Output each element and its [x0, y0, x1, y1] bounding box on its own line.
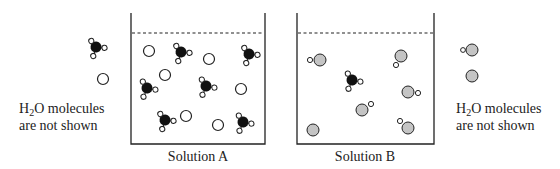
beaker-b — [297, 13, 434, 144]
legend-left-note: H2O molecules are not shown — [19, 100, 105, 134]
legend-right-note: H2O molecules are not shown — [456, 100, 542, 134]
legend-left-suffix: O molecules — [34, 101, 104, 116]
legend-right-h: H — [456, 101, 466, 116]
legend-left-open-circle-icon — [98, 74, 109, 85]
legend-right-gray-molecule-icon — [461, 44, 478, 56]
diagram-canvas — [0, 0, 560, 169]
legend-left-h: H — [19, 101, 29, 116]
legend-right-gray-circle-icon — [466, 70, 478, 82]
legend-left-line2: are not shown — [19, 118, 98, 133]
legend-right-line2: are not shown — [456, 118, 535, 133]
beaker-a — [131, 13, 265, 144]
solution-b-caption: Solution B — [295, 149, 435, 165]
legend-right-suffix: O molecules — [471, 101, 541, 116]
solution-a-caption: Solution A — [128, 149, 268, 165]
legend-left-trigonal-molecule-icon — [86, 35, 109, 59]
